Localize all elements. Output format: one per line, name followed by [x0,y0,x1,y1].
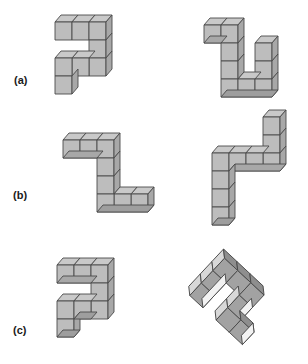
cube [255,36,278,61]
left-solid-a [55,15,112,94]
left-solid-c [57,258,114,337]
left-solid-b [63,133,154,212]
base-shadow [97,205,154,212]
right-solid-c [185,249,282,345]
row-label-c: (c) [13,324,26,336]
base-shadow [63,151,103,158]
base-shadow [57,276,97,283]
cube-figure-svg [0,0,308,364]
base-shadow [229,164,286,171]
figure-root: (a) (b) (c) [0,0,308,364]
right-solid-a [204,18,278,97]
cube [263,110,286,135]
base-shadow [221,90,278,97]
row-label-a: (a) [14,74,27,86]
right-solid-b [212,110,286,225]
row-label-b: (b) [13,189,27,201]
cube [89,15,112,40]
